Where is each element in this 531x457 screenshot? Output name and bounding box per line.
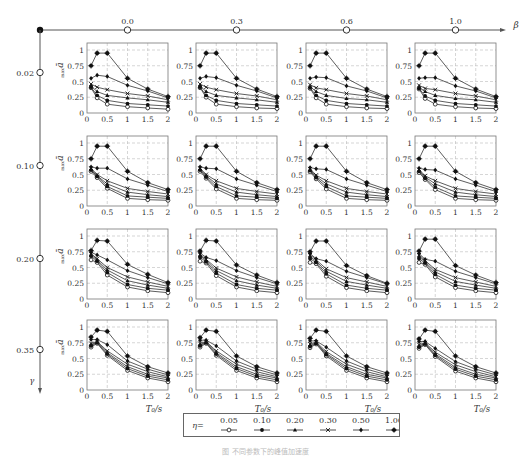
y-tick-label: 0.25 [286,186,303,195]
legend: η=0.050.100.200.300.501.00 [183,413,400,437]
y-tick-label: 0.75 [395,248,412,257]
diamond-marker-icon [126,268,130,273]
y-tick-label: 0.5 [400,264,412,273]
x-tick-label: 2 [166,115,171,124]
diamond-marker-icon [308,165,312,170]
x-tick-label: 1.5 [251,301,263,310]
x-tick-label: 1.5 [361,208,373,217]
y-tick-label: 0.5 [291,78,303,87]
y-tick-label: 0.25 [286,279,303,288]
y-tick-label: 1 [407,139,412,148]
filled-circle-marker-icon [365,286,369,290]
x-tick-label: 0.5 [429,392,441,401]
y-tick-label: 1 [188,46,193,55]
series-line [91,167,168,192]
beta-axis-label: β [512,20,518,30]
y-tick-label: 0.25 [176,279,193,288]
filled-circle-marker-icon [255,103,259,107]
y-tick-label: 0.5 [181,355,193,364]
filled-circle-marker-icon [423,94,427,98]
legend-label: 1.00 [385,416,399,425]
series-line [91,240,168,282]
y-tick-label: 0 [407,386,412,395]
x-axis-label: T₀/s [146,404,163,414]
diamond-marker-icon [345,84,349,89]
filled-circle-marker-icon [345,102,349,106]
subplot: 00.250.50.75100.511.52T₀/s [176,320,280,414]
filled-circle-marker-icon [494,104,498,108]
diamond-marker-icon [433,168,437,173]
y-tick-label: 0.25 [395,279,412,288]
y-tick-label: 0.75 [67,155,84,164]
diamond-marker-icon [198,76,202,81]
filled-circle-marker-icon [474,286,478,290]
y-tick-label: 1 [188,323,193,332]
y-tick-label: 0 [298,295,303,304]
diamond-marker-icon [345,177,349,182]
x-tick-label: 0.5 [320,301,332,310]
filled-circle-marker-icon [474,103,478,107]
diamond-marker-icon [105,258,109,263]
filled-circle-marker-icon [433,185,437,189]
y-tick-label: 0 [407,295,412,304]
y-tick-label: 1 [79,323,84,332]
x-tick-label: 0 [413,208,418,217]
y-tick-label: 0 [298,386,303,395]
beta-tick-marker [452,27,458,33]
x-tick-label: 0 [85,208,90,217]
filled-circle-marker-icon [146,103,150,107]
x-tick-label: 0 [304,115,309,124]
x-tick-label: 0 [413,301,418,310]
beta-tick-marker [124,27,130,33]
series-line [200,87,277,106]
gamma-tick-marker [37,69,43,75]
y-axis-label-subscript: max [60,161,65,171]
y-tick-label: 0 [79,202,84,211]
x-tick-label: 0 [194,208,199,217]
filled-circle-marker-icon [275,104,279,108]
x-tick-label: 1.5 [361,115,373,124]
y-tick-label: 0 [298,202,303,211]
y-tick-label: 0.5 [400,355,412,364]
x-tick-label: 1 [234,301,239,310]
x-tick-label: 2 [494,392,499,401]
figure-caption: 图 不同参数下的峰值加速度 [0,446,531,456]
x-tick-label: 1.5 [251,208,263,217]
x-tick-label: 2 [494,115,499,124]
subplot: 00.250.50.75100.511.52T₀/s [395,320,499,414]
series-line [310,53,387,97]
y-tick-label: 0.5 [291,264,303,273]
y-tick-label: 0 [407,202,412,211]
y-tick-label: 0.25 [67,279,84,288]
subplot: 00.250.50.75100.511.52 [176,136,280,217]
filled-circle-marker-icon [454,283,458,287]
x-tick-label: 0 [85,301,90,310]
x-tick-label: 1.5 [470,301,482,310]
x-tick-label: 0 [304,208,309,217]
y-tick-label: 0.5 [291,171,303,180]
legend-title: η= [192,421,204,430]
diamond-marker-icon [95,166,99,171]
y-tick-label: 0 [298,109,303,118]
y-tick-label: 0.5 [181,78,193,87]
y-tick-label: 0 [79,295,84,304]
diamond-marker-icon [214,166,218,171]
y-tick-label: 0 [79,109,84,118]
gamma-axis-arrow-icon [38,388,42,394]
series-line [419,53,496,97]
x-tick-label: 2 [275,301,280,310]
subplot: 00.250.50.75100.511.52T₀/s [286,320,390,414]
y-tick-label: 0.25 [176,370,193,379]
diamond-marker-icon [308,76,312,81]
series-line [200,240,277,282]
legend-entry: 0.20 [286,416,304,432]
y-tick-label: 1 [298,139,303,148]
y-tick-label: 0.5 [72,78,84,87]
gamma-tick-marker [37,346,43,352]
x-tick-label: 1 [125,301,130,310]
series-line [310,330,387,373]
y-tick-label: 0.75 [67,62,84,71]
diamond-marker-icon [433,346,437,351]
filled-circle-marker-icon [204,93,208,97]
subplot: 00.250.50.75100.511.52 [395,43,499,124]
